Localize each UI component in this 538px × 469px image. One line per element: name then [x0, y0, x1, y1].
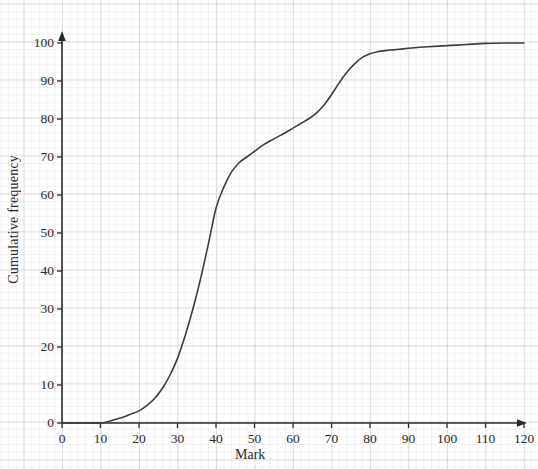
- axis-lines: [58, 31, 527, 427]
- y-axis-tick-label: 90: [12, 73, 54, 89]
- x-axis-tick-label: 60: [286, 431, 300, 447]
- data-series-group: [62, 43, 524, 423]
- cumulative-frequency-curve: [62, 43, 524, 423]
- y-axis-tick-label: 0: [12, 415, 54, 431]
- x-axis-tick-label: 90: [402, 431, 416, 447]
- x-axis-tick-label: 80: [363, 431, 377, 447]
- x-axis-arrowhead: [517, 419, 527, 427]
- y-axis-tick-label: 30: [12, 301, 54, 317]
- chart-page: 0102030405060708090100 01020304050607080…: [0, 0, 538, 469]
- y-axis-tick-label: 100: [12, 35, 54, 51]
- y-axis-tick-label: 20: [12, 339, 54, 355]
- x-axis-tick-label: 110: [476, 431, 496, 447]
- x-axis-tick-label: 40: [209, 431, 223, 447]
- x-axis-tick-label: 100: [437, 431, 457, 447]
- x-axis-tick-label: 20: [132, 431, 146, 447]
- y-axis-arrowhead: [58, 31, 66, 41]
- x-axis-tick-label: 10: [94, 431, 108, 447]
- y-axis-tick-label: 10: [12, 377, 54, 393]
- x-axis-tick-label: 50: [248, 431, 262, 447]
- x-axis-tick-label: 70: [325, 431, 339, 447]
- plot-area: [0, 0, 538, 469]
- y-axis-title: Cumulative frequency: [6, 155, 22, 284]
- x-axis-tick-label: 120: [514, 431, 534, 447]
- y-axis-tick-label: 80: [12, 111, 54, 127]
- x-axis-title: Mark: [235, 447, 265, 463]
- x-axis-tick-label: 30: [171, 431, 185, 447]
- x-axis-tick-label: 0: [59, 431, 66, 447]
